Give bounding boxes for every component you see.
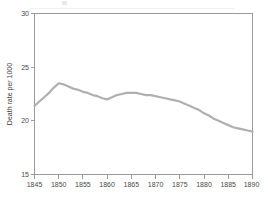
x-tick-label-1860: 1860: [99, 181, 115, 188]
x-tick-label-1865: 1865: [124, 181, 140, 188]
y-tick-label-25: 25: [21, 64, 29, 71]
x-tick-label-1880: 1880: [196, 181, 212, 188]
y-tick-label-20: 20: [21, 117, 29, 124]
y-tick-label-30: 30: [21, 10, 29, 17]
x-tick-label-1875: 1875: [172, 181, 188, 188]
data-series-line: [35, 83, 253, 131]
scan-artifact-line: [30, 8, 235, 9]
y-axis-ticks: [31, 14, 35, 175]
line-chart: 30 25 20 15 1845 1850 1855 1860 1865 187…: [0, 0, 268, 197]
scan-artifact: [62, 1, 67, 5]
y-tick-label-15: 15: [21, 171, 29, 178]
x-tick-label-1890: 1890: [244, 181, 260, 188]
chart-container: 30 25 20 15 1845 1850 1855 1860 1865 187…: [0, 0, 268, 197]
x-tick-label-1845: 1845: [27, 181, 43, 188]
x-tick-label-1850: 1850: [51, 181, 67, 188]
x-tick-label-1855: 1855: [75, 181, 91, 188]
y-axis-title: Death rate per 1000: [6, 63, 14, 125]
x-tick-label-1870: 1870: [148, 181, 164, 188]
x-tick-label-1885: 1885: [220, 181, 236, 188]
x-axis-ticks: [35, 175, 253, 179]
